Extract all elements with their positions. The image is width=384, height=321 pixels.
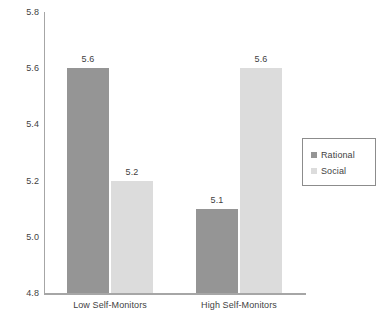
legend-label: Rational	[321, 150, 355, 160]
bar-value-label: 5.6	[67, 54, 109, 64]
x-axis-line	[44, 293, 306, 295]
y-axis-tick-label: 5.6	[26, 63, 39, 73]
bar-social-1	[240, 68, 282, 293]
y-axis-tick-label: 5.4	[26, 119, 39, 129]
bar-value-label: 5.1	[196, 195, 238, 205]
bar-rational-1	[196, 209, 238, 293]
bar-chart: 5.85.65.45.25.04.8 5.65.25.15.6 Low Self…	[0, 0, 384, 321]
y-axis-tick-label: 5.8	[26, 7, 39, 17]
legend-swatch-icon	[311, 168, 317, 174]
legend-item-social: Social	[311, 164, 375, 178]
x-axis-category-label: High Self-Monitors	[179, 300, 299, 311]
y-axis-tick-label: 5.2	[26, 176, 39, 186]
legend: Rational Social	[302, 138, 376, 186]
x-axis-category-label: Low Self-Monitors	[50, 300, 170, 311]
legend-label: Social	[321, 166, 346, 176]
bar-value-label: 5.6	[240, 54, 282, 64]
legend-swatch-icon	[311, 152, 317, 158]
bar-social-0	[111, 181, 153, 293]
bar-rational-0	[67, 68, 109, 293]
bar-value-label: 5.2	[111, 167, 153, 177]
y-axis-tick-label: 5.0	[26, 232, 39, 242]
legend-item-rational: Rational	[311, 148, 375, 162]
y-axis-tick-label: 4.8	[26, 288, 39, 298]
